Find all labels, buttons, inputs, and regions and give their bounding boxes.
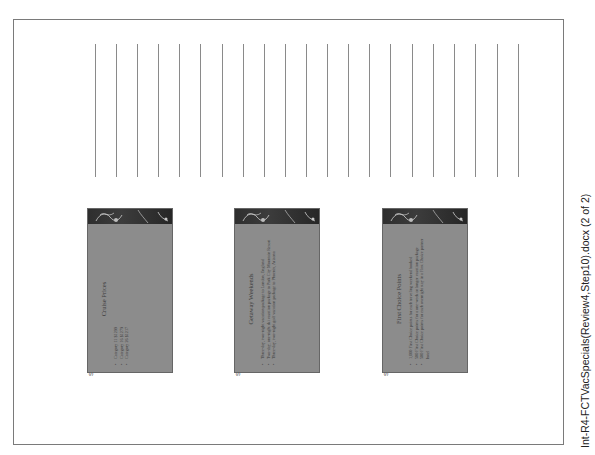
slide-thumbnail-6: First Choice Points 1,000 First Choice p… bbox=[382, 208, 468, 373]
note-line bbox=[179, 44, 180, 177]
slide-content: Cruise Prices Category 11 $1299 Category… bbox=[88, 224, 173, 373]
note-line bbox=[264, 44, 265, 177]
note-line bbox=[116, 44, 117, 177]
note-line bbox=[518, 44, 519, 177]
note-line bbox=[95, 44, 96, 177]
slide-content: Getaway Weekends Three-day, two-night va… bbox=[235, 224, 320, 373]
document-filename: Int-R4-FCTVacSpecials(Review4,Step10).do… bbox=[579, 194, 591, 448]
slide-bullets: Three-day, two-night vacation package to… bbox=[260, 232, 277, 366]
note-line bbox=[369, 44, 370, 177]
decorative-pattern-icon bbox=[88, 209, 173, 224]
note-line bbox=[137, 44, 138, 177]
slide-thumbnail-5: Getaway Weekends Three-day, two-night va… bbox=[234, 208, 320, 373]
slide-title: Cruise Prices bbox=[100, 232, 107, 366]
slide-bullet: 500 First Choice points for each overnig… bbox=[419, 232, 430, 359]
slide-header-image bbox=[235, 209, 319, 224]
note-line bbox=[285, 44, 286, 177]
note-line bbox=[158, 44, 159, 177]
note-line bbox=[327, 44, 328, 177]
slide-header-image bbox=[383, 209, 467, 224]
note-line bbox=[433, 44, 434, 177]
slide-title: Getaway Weekends bbox=[247, 232, 254, 366]
slide-content: First Choice Points 1,000 First Choice p… bbox=[383, 224, 468, 373]
note-line bbox=[348, 44, 349, 177]
decorative-pattern-icon bbox=[235, 209, 320, 224]
note-line bbox=[412, 44, 413, 177]
note-line bbox=[390, 44, 391, 177]
slide-header-image bbox=[88, 209, 172, 224]
note-line bbox=[454, 44, 455, 177]
note-line bbox=[497, 44, 498, 177]
decorative-pattern-icon bbox=[383, 209, 468, 224]
note-line bbox=[475, 44, 476, 177]
note-line bbox=[200, 44, 201, 177]
slide-bullets: 1,000 First Choice points for each trave… bbox=[408, 232, 430, 366]
slide-title: First Choice Points bbox=[395, 232, 402, 366]
slide-bullet: Category 26 $1217 bbox=[124, 232, 130, 359]
note-line bbox=[243, 44, 244, 177]
slide-thumbnail-4: Cruise Prices Category 11 $1299 Category… bbox=[87, 208, 173, 373]
note-line bbox=[306, 44, 307, 177]
note-line bbox=[222, 44, 223, 177]
slide-bullets: Category 11 $1299 Category 16 $1279 Cate… bbox=[113, 232, 130, 366]
slide-bullet: Three-day, two-night golf vacation packa… bbox=[271, 232, 277, 359]
